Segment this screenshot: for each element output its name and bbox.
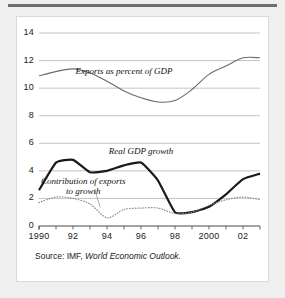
y-axis-tick-label: 10 xyxy=(14,82,34,92)
source-note: Source: IMF, World Economic Outlook. xyxy=(35,251,181,261)
series-annotation-3: Contribution of exportsto growth xyxy=(28,176,138,196)
series-line-3 xyxy=(39,197,260,218)
top-divider-rule xyxy=(8,4,277,7)
x-axis-group xyxy=(39,226,260,230)
y-axis-tick-label: 6 xyxy=(14,137,34,147)
series-annotation-2: Real GDP growth xyxy=(86,146,196,156)
y-axis-tick-label: 14 xyxy=(14,27,34,37)
y-axis-tick-label: 0 xyxy=(14,220,34,230)
x-axis-tick-label: 02 xyxy=(223,231,263,241)
y-axis-tick-label: 4 xyxy=(14,165,34,175)
annotation-line-2: to growth xyxy=(28,186,138,196)
y-axis-tick-label: 12 xyxy=(14,55,34,65)
source-publication: World Economic Outlook. xyxy=(85,251,181,261)
source-prefix: Source: IMF, xyxy=(35,251,85,261)
series-line-1 xyxy=(39,57,260,102)
y-axis-tick-label: 8 xyxy=(14,110,34,120)
annotation-line-1: Contribution of exports xyxy=(28,176,138,186)
gridlines-group xyxy=(39,33,260,198)
series-annotation-1: Exports as percent of GDP xyxy=(69,66,179,76)
figure-card: 02468101214 199092949698200002 Exports a… xyxy=(16,16,269,282)
